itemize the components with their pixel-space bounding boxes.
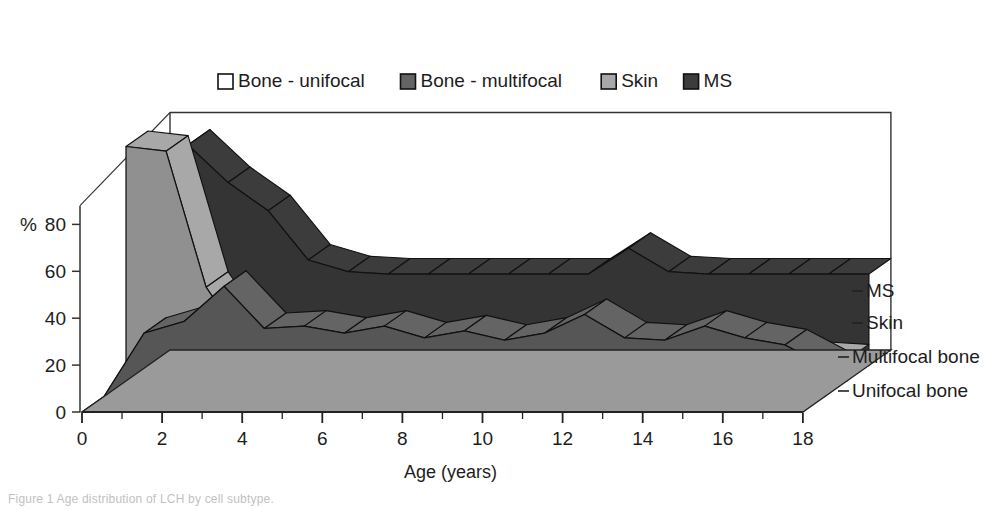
figure-caption: Figure 1 Age distribution of LCH by cell… bbox=[8, 492, 274, 506]
legend-label-1[interactable]: Bone - multifocal bbox=[421, 70, 563, 91]
x-axis-tick-label[interactable]: 18 bbox=[792, 428, 813, 449]
y-axis-tick-label[interactable]: 40 bbox=[45, 308, 66, 329]
x-axis-floor[interactable] bbox=[82, 350, 891, 412]
x-axis-tick-label[interactable]: 16 bbox=[712, 428, 733, 449]
chart-figure: 020406080%024681012141618Age (years)Bone… bbox=[0, 0, 999, 510]
chart-legend: Bone - unifocalBone - multifocalSkinMS bbox=[218, 70, 732, 91]
x-axis-title[interactable]: Age (years) bbox=[404, 462, 497, 482]
x-axis-tick-label[interactable]: 0 bbox=[77, 428, 88, 449]
legend-swatch-0[interactable] bbox=[218, 74, 233, 89]
x-axis-tick-label[interactable]: 2 bbox=[157, 428, 168, 449]
y-axis-tick-label[interactable]: 0 bbox=[55, 402, 66, 423]
x-axis-tick-label[interactable]: 12 bbox=[552, 428, 573, 449]
x-axis-tick-label[interactable]: 4 bbox=[237, 428, 248, 449]
legend-swatch-3[interactable] bbox=[684, 74, 699, 89]
legend-swatch-1[interactable] bbox=[401, 74, 416, 89]
y-axis: 020406080% bbox=[20, 206, 80, 423]
series-callout-unifocal[interactable]: Unifocal bone bbox=[852, 380, 968, 401]
series-callout-skin[interactable]: Skin bbox=[866, 312, 903, 333]
series-callout-ms[interactable]: MS bbox=[866, 280, 895, 301]
x-axis-tick-label[interactable]: 8 bbox=[397, 428, 408, 449]
legend-label-2[interactable]: Skin bbox=[621, 70, 658, 91]
y-axis-tick-label[interactable]: 60 bbox=[45, 261, 66, 282]
x-axis-tick-label[interactable]: 14 bbox=[632, 428, 654, 449]
y-axis-unit-label[interactable]: % bbox=[20, 214, 37, 235]
y-axis-tick-label[interactable]: 20 bbox=[45, 355, 66, 376]
legend-label-0[interactable]: Bone - unifocal bbox=[238, 70, 365, 91]
legend-swatch-2[interactable] bbox=[601, 74, 616, 89]
y-axis-tick-label[interactable]: 80 bbox=[45, 214, 66, 235]
x-axis: 024681012141618Age (years) bbox=[77, 350, 891, 482]
legend-label-3[interactable]: MS bbox=[704, 70, 733, 91]
x-axis-tick-label[interactable]: 10 bbox=[472, 428, 493, 449]
x-axis-tick-label[interactable]: 6 bbox=[317, 428, 328, 449]
three-d-area-chart: 020406080%024681012141618Age (years)Bone… bbox=[0, 0, 999, 510]
series-callout-multifocal[interactable]: Multifocal bone bbox=[852, 346, 980, 367]
